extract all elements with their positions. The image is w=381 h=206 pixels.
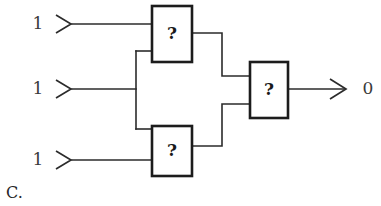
wire-group [72, 24, 344, 160]
input-marker-bottom-icon [56, 151, 71, 169]
gate-output-label: ? [264, 79, 274, 99]
input-label-group: 1 1 1 [33, 13, 44, 169]
figure-caption: C. [6, 183, 23, 202]
input-middle-label: 1 [33, 78, 44, 98]
logic-circuit-figure: ? ? ? 1 1 1 0 C. [0, 0, 381, 206]
input-marker-middle-icon [56, 80, 71, 98]
input-marker-top-icon [56, 15, 71, 33]
circuit-diagram-canvas: ? ? ? 1 1 1 0 C. [0, 0, 381, 206]
input-bottom-label: 1 [33, 149, 44, 169]
wire-gate-bottom-to-output [192, 104, 250, 146]
output-value-label: 0 [363, 78, 374, 98]
gate-top-label: ? [167, 23, 177, 43]
input-top-label: 1 [33, 13, 44, 33]
wire-gate-top-to-output-gate [192, 33, 250, 76]
gate-bottom-label: ? [167, 140, 177, 160]
